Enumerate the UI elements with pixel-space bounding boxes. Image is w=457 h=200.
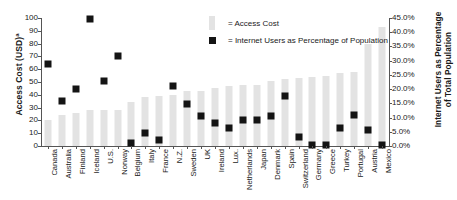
legend-label-internet-users: = Internet Users as Percentage of Popula… bbox=[228, 36, 388, 45]
bar-access-cost bbox=[225, 86, 232, 146]
x-axis-category-label: Spain bbox=[288, 149, 296, 168]
x-axis-category-label: Mexico bbox=[385, 149, 393, 173]
bar-group bbox=[166, 18, 180, 146]
y-axis-right-tick-label: 25.0% bbox=[392, 71, 426, 79]
bar-group bbox=[41, 18, 55, 146]
bar-access-cost bbox=[58, 115, 65, 146]
bar-access-cost bbox=[337, 73, 344, 146]
marker-internet-users bbox=[72, 86, 79, 93]
x-axis-category-label: U.S. bbox=[107, 149, 115, 164]
y-axis-right-tick-label: 5.0% bbox=[392, 128, 426, 136]
y-axis-left-tick-label: 0 bbox=[16, 142, 38, 150]
marker-internet-users bbox=[44, 61, 51, 68]
y-axis-left-tickmark bbox=[38, 44, 41, 45]
y-axis-right-tick-label: 10.0% bbox=[392, 114, 426, 122]
marker-internet-users bbox=[184, 100, 191, 107]
y-axis-right-tickmark bbox=[389, 103, 392, 104]
bar-access-cost bbox=[351, 72, 358, 146]
y-axis-right-tick-label: 45.0% bbox=[392, 14, 426, 22]
bar-group bbox=[55, 18, 69, 146]
y-axis-right-tick-label: 0.0% bbox=[392, 142, 426, 150]
marker-internet-users bbox=[351, 112, 358, 119]
marker-internet-users bbox=[281, 93, 288, 100]
bar-group bbox=[111, 18, 125, 146]
marker-internet-users bbox=[267, 113, 274, 120]
y-axis-right-tick-label: 15.0% bbox=[392, 99, 426, 107]
y-axis-left-tickmark bbox=[38, 108, 41, 109]
y-axis-left-tickmark bbox=[38, 18, 41, 19]
bar-access-cost bbox=[86, 110, 93, 146]
chart-container: Access Cost (USD)a Internet Users as Per… bbox=[0, 0, 457, 200]
legend-bar-swatch-icon bbox=[209, 16, 215, 30]
y-axis-left-tick-label: 40 bbox=[16, 91, 38, 99]
y-axis-left-tickmark bbox=[38, 133, 41, 134]
y-axis-right-tick-label: 30.0% bbox=[392, 57, 426, 65]
x-axis-category-label: Belgium bbox=[134, 149, 142, 176]
marker-internet-users bbox=[114, 53, 121, 60]
x-axis-category-label: Ireland bbox=[218, 149, 226, 172]
x-axis-category-label: Switzerland bbox=[302, 149, 310, 188]
x-axis-category-label: Denmark bbox=[274, 149, 282, 180]
marker-internet-users bbox=[170, 83, 177, 90]
bar-access-cost bbox=[72, 113, 79, 146]
x-axis-category-label: Lux. bbox=[232, 149, 240, 163]
marker-internet-users bbox=[365, 127, 372, 134]
bar-group bbox=[194, 18, 208, 146]
x-axis-category-label: Japan bbox=[260, 149, 268, 170]
bar-access-cost bbox=[44, 120, 51, 146]
bar-group bbox=[83, 18, 97, 146]
bar-group bbox=[180, 18, 194, 146]
y-axis-right-tick-label: 35.0% bbox=[392, 42, 426, 50]
y-axis-left-tickmark bbox=[38, 82, 41, 83]
x-axis-category-label: Norway bbox=[121, 149, 129, 175]
y-axis-left-tick-label: 50 bbox=[16, 78, 38, 86]
y-axis-right-tickmark bbox=[389, 32, 392, 33]
x-axis-category-label: Austria bbox=[371, 149, 379, 173]
bar-access-cost bbox=[281, 79, 288, 146]
x-axis-category-label: N.Z. bbox=[176, 149, 184, 163]
bar-access-cost bbox=[142, 97, 149, 146]
y-axis-right-title: Internet Users as Percentage of Total Po… bbox=[434, 10, 453, 130]
x-axis-category-label: Germany bbox=[315, 149, 323, 180]
x-axis-category-labels: CanadaAustraliaFinlandIcelandU.S.NorwayB… bbox=[41, 149, 389, 200]
y-axis-left-tick-label: 100 bbox=[16, 14, 38, 22]
bar-access-cost bbox=[323, 76, 330, 146]
y-axis-right-tickmark bbox=[389, 18, 392, 19]
x-axis-category-label: France bbox=[162, 149, 170, 173]
x-axis-category-label: Canada bbox=[51, 149, 59, 176]
y-axis-left-ticks: 0102030405060708090100 bbox=[14, 0, 38, 200]
y-axis-right-tickmark bbox=[389, 146, 392, 147]
bar-group bbox=[138, 18, 152, 146]
x-axis-category-label: Portugal bbox=[357, 149, 365, 177]
y-axis-left-tick-label: 60 bbox=[16, 65, 38, 73]
y-axis-left-tickmark bbox=[38, 146, 41, 147]
y-axis-left-tickmark bbox=[38, 95, 41, 96]
x-axis-category-label: Netherlands bbox=[246, 149, 254, 190]
y-axis-left-tickmark bbox=[38, 56, 41, 57]
marker-internet-users bbox=[142, 130, 149, 137]
bar-access-cost bbox=[211, 88, 218, 146]
marker-internet-users bbox=[100, 77, 107, 84]
x-axis-category-label: Turkey bbox=[343, 149, 351, 172]
y-axis-right-ticks: 0.0%5.0%10.0%15.0%20.0%25.0%30.0%35.0%40… bbox=[392, 0, 428, 200]
marker-internet-users bbox=[211, 120, 218, 127]
bar-group bbox=[125, 18, 139, 146]
y-axis-right-tickmark bbox=[389, 46, 392, 47]
y-axis-left-tickmark bbox=[38, 120, 41, 121]
y-axis-right-tickmark bbox=[389, 118, 392, 119]
x-axis-category-label: Greece bbox=[329, 149, 337, 174]
bar-access-cost bbox=[309, 77, 316, 146]
bar-access-cost bbox=[170, 95, 177, 146]
bar-group bbox=[69, 18, 83, 146]
y-axis-left-tick-label: 20 bbox=[16, 116, 38, 124]
y-axis-left-tickmark bbox=[38, 31, 41, 32]
marker-internet-users bbox=[198, 113, 205, 120]
marker-internet-users bbox=[239, 116, 246, 123]
y-axis-left-tickmark bbox=[38, 69, 41, 70]
y-axis-right-tickmark bbox=[389, 132, 392, 133]
x-axis-category-label: UK bbox=[204, 149, 212, 160]
legend-square-swatch-icon bbox=[209, 37, 216, 44]
y-axis-right-tickmark bbox=[389, 75, 392, 76]
legend-label-access-cost: = Access Cost bbox=[228, 19, 279, 28]
marker-internet-users bbox=[253, 116, 260, 123]
